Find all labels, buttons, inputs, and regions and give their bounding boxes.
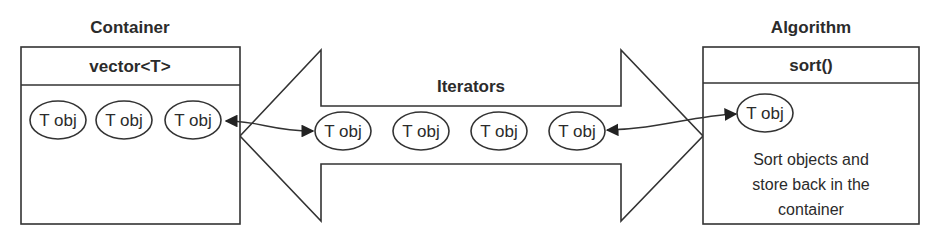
algorithm-title: Algorithm: [771, 18, 851, 37]
svg-text:T obj: T obj: [324, 122, 362, 141]
stl-diagram: Container vector<T> T obj T obj T obj It…: [0, 0, 938, 235]
svg-text:T obj: T obj: [402, 122, 440, 141]
svg-text:T obj: T obj: [174, 111, 212, 130]
container-title: Container: [90, 18, 170, 37]
svg-text:T obj: T obj: [746, 104, 784, 123]
algorithm-box: Algorithm sort() T obj Sort objects and …: [703, 18, 919, 224]
algorithm-description-line: Sort objects and: [753, 151, 869, 168]
container-header: vector<T>: [89, 57, 170, 76]
iterators-label: Iterators: [437, 77, 505, 96]
algorithm-description-line: store back in the: [752, 176, 870, 193]
svg-text:T obj: T obj: [480, 122, 518, 141]
container-box: Container vector<T> T obj T obj T obj: [21, 18, 240, 224]
svg-text:T obj: T obj: [105, 111, 143, 130]
svg-text:T obj: T obj: [558, 122, 596, 141]
algorithm-header: sort(): [789, 56, 832, 75]
algorithm-description-line: container: [778, 201, 844, 218]
svg-text:T obj: T obj: [39, 111, 77, 130]
